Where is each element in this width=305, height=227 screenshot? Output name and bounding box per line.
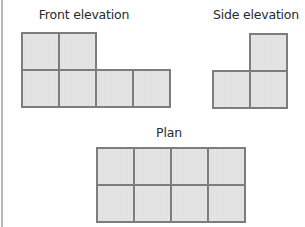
page-edge-line	[1, 0, 3, 227]
plan-square	[170, 184, 209, 223]
side-elevation-label: Side elevation	[213, 7, 299, 22]
side-elevation-square	[249, 33, 288, 72]
front-elevation-square	[132, 69, 171, 108]
plan-square	[96, 147, 135, 186]
plan-square	[133, 184, 172, 223]
front-elevation-square	[21, 32, 60, 71]
side-elevation-square	[212, 70, 251, 109]
plan-square	[170, 147, 209, 186]
plan-square	[207, 184, 246, 223]
plan-square	[96, 184, 135, 223]
front-elevation-square	[21, 69, 60, 108]
plan-square	[207, 147, 246, 186]
front-elevation-square	[58, 69, 97, 108]
front-elevation-square	[58, 32, 97, 71]
front-elevation-label: Front elevation	[39, 7, 129, 22]
plan-square	[133, 147, 172, 186]
plan-label: Plan	[156, 125, 182, 140]
front-elevation-square	[95, 69, 134, 108]
side-elevation-square	[249, 70, 288, 109]
